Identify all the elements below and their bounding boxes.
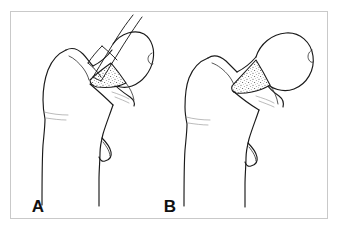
panel-b-shading-3 xyxy=(186,117,210,120)
figure-illustration: A xyxy=(0,0,350,230)
panel-a-greater-trochanter xyxy=(42,50,66,205)
panel-b-lesser-trochanter-inner xyxy=(249,147,256,161)
panel-a-cut-surface xyxy=(90,63,126,87)
figure-artwork: A xyxy=(0,0,350,230)
panel-a-osteotome-shaft-edge-2 xyxy=(101,17,142,81)
panel-b-greater-trochanter xyxy=(184,58,208,206)
panel-b-neck-inferior xyxy=(233,91,259,110)
panel-a-shading-3 xyxy=(44,112,68,115)
panel-a-osteotome-collar xyxy=(88,46,102,63)
panel-a-lesser-trochanter-inner xyxy=(103,142,110,156)
panel-b-shading-4 xyxy=(188,123,208,125)
panel-b-drawing: B xyxy=(164,33,313,216)
panel-a-trochanteric-fossa xyxy=(69,56,89,80)
panel-a-shading-4 xyxy=(46,118,66,120)
panel-a-drawing: A xyxy=(32,15,154,216)
panel-b-shading-1 xyxy=(256,96,274,103)
panel-label-a: A xyxy=(32,197,44,216)
panel-label-b: B xyxy=(164,197,176,216)
panel-b-cut-surface xyxy=(232,60,270,93)
panel-a-shading-1 xyxy=(112,92,129,99)
